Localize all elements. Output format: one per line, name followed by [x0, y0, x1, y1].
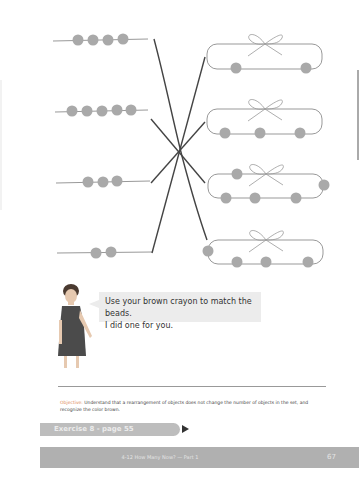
bracelet-3[interactable] [207, 100, 322, 139]
footer-title: 4-12 How Many Now? — Part 1 [40, 447, 280, 468]
page-number: 67 [327, 447, 336, 468]
bead-string-2[interactable] [57, 247, 152, 259]
match-lines [151, 39, 207, 253]
speech-bubble: Use your brown crayon to match the beads… [99, 292, 261, 322]
instruction-line-2: I did one for you. [105, 320, 255, 332]
child-character-illustration [58, 284, 92, 368]
footer-bar: 4-12 How Many Now? — Part 1 67 [40, 447, 359, 468]
arrow-right-icon [182, 425, 189, 433]
objective-label: Objective: [60, 400, 83, 405]
bracelet-5[interactable] [208, 165, 330, 204]
divider-line [58, 386, 326, 387]
exercise-tab[interactable]: Exercise 8 - page 55 [40, 423, 180, 436]
page-edge [0, 80, 2, 210]
matching-illustration [0, 0, 359, 487]
bracelet-2[interactable] [207, 35, 322, 74]
bead-string-5[interactable] [55, 105, 148, 117]
objective-body: Understand that a rearrangement of objec… [60, 400, 308, 412]
speech-bubble-tail [89, 300, 99, 308]
bead-string-4[interactable] [53, 34, 148, 46]
instruction-line-1: Use your brown crayon to match the beads… [105, 296, 255, 320]
bead-string-3[interactable] [56, 176, 150, 188]
bracelet-4[interactable] [203, 231, 324, 268]
objective-text: Objective: Understand that a rearrangeme… [60, 399, 330, 413]
